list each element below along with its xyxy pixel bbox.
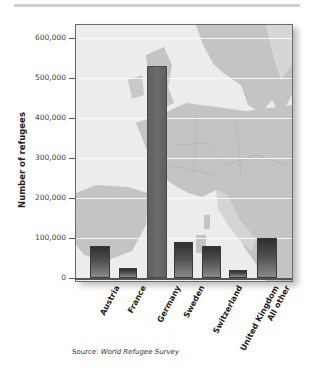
y-tick-label: 500,000 — [35, 74, 66, 82]
y-tick-label: 600,000 — [35, 34, 66, 42]
gridline — [76, 158, 292, 159]
gridline — [76, 198, 292, 199]
bar-sweden — [174, 242, 193, 278]
bar-france — [119, 268, 137, 278]
x-label-germany: Germany — [156, 284, 183, 324]
gridline — [76, 78, 292, 79]
y-axis-label: Number of refugees — [17, 112, 27, 208]
top-divider — [14, 4, 300, 7]
bar-switzerland — [202, 246, 221, 278]
gridline — [76, 38, 292, 39]
x-label-austria: Austria — [98, 284, 121, 317]
y-tick-label: 200,000 — [35, 194, 66, 202]
bar-austria — [90, 246, 110, 278]
y-tick-label: 300,000 — [35, 154, 66, 162]
source-note: Source: World Refugee Survey — [72, 348, 179, 356]
y-tick-label: 100,000 — [35, 234, 66, 242]
source-prefix: Source: — [72, 348, 101, 356]
y-tick-label: 0 — [61, 274, 66, 282]
source-name: World Refugee Survey — [101, 348, 179, 356]
x-label-switzerland: Switzerland — [211, 284, 244, 335]
bar-all-other — [257, 238, 277, 278]
bar-united-kingdom — [229, 270, 247, 278]
gridline — [76, 118, 292, 119]
y-tick-label: 400,000 — [35, 114, 66, 122]
x-label-sweden: Sweden — [182, 284, 207, 320]
x-label-france: France — [126, 284, 148, 315]
bar-germany — [147, 66, 167, 278]
x-axis-baseline — [75, 278, 292, 280]
